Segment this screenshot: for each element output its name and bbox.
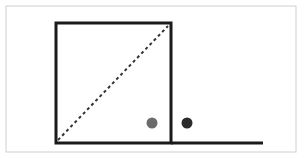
gray-dot — [147, 118, 158, 129]
outer-frame — [6, 6, 296, 152]
dark-dot — [182, 118, 193, 129]
diagram-canvas — [0, 0, 304, 158]
